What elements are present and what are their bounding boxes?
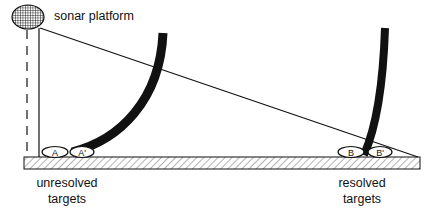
unresolved-line1: unresolved: [22, 175, 112, 191]
unresolved-line2: targets: [22, 191, 112, 207]
unresolved-targets-label: unresolved targets: [22, 175, 112, 207]
svg-text:A: A: [52, 148, 58, 158]
resolved-line1: resolved: [322, 175, 402, 191]
slant-range-line: [40, 28, 418, 157]
target-B: B: [338, 147, 364, 158]
svg-text:B: B: [348, 148, 354, 158]
sonar-platform-icon: [12, 5, 44, 29]
wide-beam-left: [72, 33, 163, 152]
seabed: [24, 157, 420, 169]
target-A-prime: A': [70, 147, 94, 158]
narrow-beam-right: [364, 28, 385, 155]
svg-text:B': B': [376, 148, 384, 158]
target-B-prime: B': [368, 147, 392, 158]
sonar-platform-label: sonar platform: [54, 8, 134, 24]
target-A: A: [42, 147, 68, 158]
resolved-targets-label: resolved targets: [322, 175, 402, 207]
svg-text:A': A': [78, 148, 86, 158]
resolved-line2: targets: [322, 191, 402, 207]
